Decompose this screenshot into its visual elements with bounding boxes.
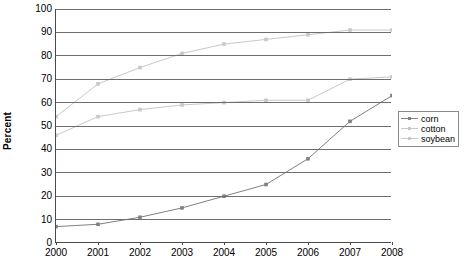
x-axis-tick-label: 2005 — [255, 248, 277, 258]
y-axis-tick-label: 70 — [41, 74, 52, 84]
data-point-corn — [348, 120, 352, 124]
x-axis-tick-mark — [308, 242, 309, 245]
plot-area: 0102030405060708090100200020012002200320… — [55, 9, 391, 243]
data-point-corn — [390, 94, 392, 98]
data-point-soybean — [96, 82, 100, 86]
data-point-cotton — [180, 103, 184, 107]
x-axis-tick-mark — [140, 242, 141, 245]
y-axis-tick-label: 100 — [35, 4, 52, 14]
gridline — [56, 219, 391, 220]
y-axis-tick-label: 10 — [41, 215, 52, 225]
x-axis-tick-label: 2004 — [213, 248, 235, 258]
legend-swatch-cotton — [401, 124, 418, 134]
legend-item-soybean[interactable]: soybean — [401, 134, 455, 144]
x-axis-tick-label: 2002 — [129, 248, 151, 258]
y-axis-tick-label: 30 — [41, 168, 52, 178]
y-axis-tick-label: 80 — [41, 51, 52, 61]
x-axis-tick-mark — [182, 242, 183, 245]
legend-label-cotton: cotton — [421, 124, 446, 134]
y-axis-title: Percent — [2, 26, 13, 96]
plot-inner: 0102030405060708090100200020012002200320… — [56, 9, 391, 242]
data-point-cotton — [138, 108, 142, 112]
legend-swatch-soybean — [401, 134, 418, 144]
x-axis-tick-mark — [392, 242, 393, 245]
data-point-corn — [306, 157, 310, 161]
gridline — [56, 32, 391, 33]
gridline — [56, 172, 391, 173]
y-axis-title-label: Percent — [2, 96, 13, 166]
x-axis-tick-mark — [266, 242, 267, 245]
legend-label-corn: corn — [421, 114, 439, 124]
data-point-soybean — [306, 33, 310, 37]
x-axis-tick-label: 2006 — [297, 248, 319, 258]
x-axis-tick-mark — [98, 242, 99, 245]
data-point-soybean — [264, 38, 268, 42]
y-axis-tick-label: 90 — [41, 27, 52, 37]
legend-label-soybean: soybean — [421, 134, 455, 144]
y-axis-tick-label: 60 — [41, 98, 52, 108]
legend-item-cotton[interactable]: cotton — [401, 124, 455, 134]
data-point-soybean — [56, 115, 58, 119]
gridline — [56, 126, 391, 127]
legend-swatch-corn — [401, 114, 418, 124]
gridline — [56, 55, 391, 56]
x-axis-tick-mark — [56, 242, 57, 245]
y-axis-tick-label: 40 — [41, 144, 52, 154]
line-chart: Percent 01020304050607080901002000200120… — [0, 0, 466, 268]
data-point-cotton — [96, 115, 100, 119]
y-axis-tick-label: 50 — [41, 121, 52, 131]
data-point-corn — [56, 225, 58, 229]
data-point-cotton — [56, 134, 58, 138]
x-axis-tick-label: 2001 — [87, 248, 109, 258]
legend: corn cotton soybean — [398, 111, 459, 147]
data-point-corn — [180, 206, 184, 210]
x-axis-tick-label: 2000 — [45, 248, 67, 258]
data-point-soybean — [222, 42, 226, 46]
data-point-corn — [264, 183, 268, 187]
x-axis-tick-mark — [350, 242, 351, 245]
series-line-cotton — [56, 77, 392, 136]
x-axis-tick-label: 2007 — [339, 248, 361, 258]
y-axis-tick-label: 20 — [41, 191, 52, 201]
data-point-soybean — [138, 66, 142, 70]
x-axis-tick-label: 2003 — [171, 248, 193, 258]
x-axis-tick-mark — [224, 242, 225, 245]
legend-item-corn[interactable]: corn — [401, 114, 455, 124]
gridline — [56, 79, 391, 80]
data-point-corn — [96, 222, 100, 226]
x-axis-tick-label: 2008 — [381, 248, 403, 258]
gridline — [56, 102, 391, 103]
gridline — [56, 196, 391, 197]
gridline — [56, 9, 391, 10]
gridline — [56, 149, 391, 150]
